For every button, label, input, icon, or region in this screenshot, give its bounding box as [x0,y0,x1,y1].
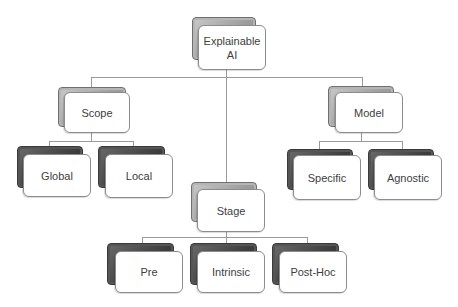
node-stage: Stage [191,182,265,232]
connector-scope-down [91,133,92,141]
connector-to-model [362,77,363,86]
node-card: Post-Hoc [279,251,347,293]
connector-model-down [361,133,362,141]
node-local: Local [98,146,173,198]
xai-taxonomy-diagram: Explainable AI Scope Model Stage Global [0,0,458,307]
node-label-line2: AI [204,48,261,62]
connector-scope-bar [49,141,133,142]
node-card: Specific [293,155,361,200]
connector-stage-bar [142,237,307,238]
node-label: Intrinsic [212,265,250,279]
node-explainable-ai: Explainable AI [192,17,266,70]
node-intrinsic: Intrinsic [190,243,265,293]
node-label: Stage [217,204,246,218]
node-card: Local [105,154,173,198]
node-label: Model [354,106,384,120]
connector-to-agnostic [402,141,403,149]
node-label: Global [41,169,73,183]
node-global: Global [17,146,91,197]
node-card: Stage [197,189,265,232]
node-pre: Pre [107,243,183,293]
node-agnostic: Agnostic [368,149,442,200]
node-card: Agnostic [374,155,442,200]
node-model: Model [328,86,403,133]
connector-level1-bar [91,77,362,78]
node-card: Scope [64,92,130,133]
node-card: Intrinsic [197,251,265,293]
node-card: Global [23,154,91,197]
node-label: Local [126,169,152,183]
node-label: Specific [308,171,347,185]
node-scope: Scope [58,87,130,133]
node-card: Pre [115,251,183,293]
node-label: Scope [81,106,112,120]
connector-to-specific [319,141,320,149]
node-post-hoc: Post-Hoc [272,243,347,293]
connector-root-down [226,70,227,189]
node-card: Explainable AI [198,25,266,70]
node-label: Pre [140,265,157,279]
node-label: Post-Hoc [290,265,335,279]
node-label: Agnostic [387,171,429,185]
connector-model-bar [319,141,402,142]
node-specific: Specific [287,149,361,200]
node-label-line1: Explainable [204,34,261,48]
node-card: Model [335,92,403,133]
connector-to-scope [91,77,92,87]
